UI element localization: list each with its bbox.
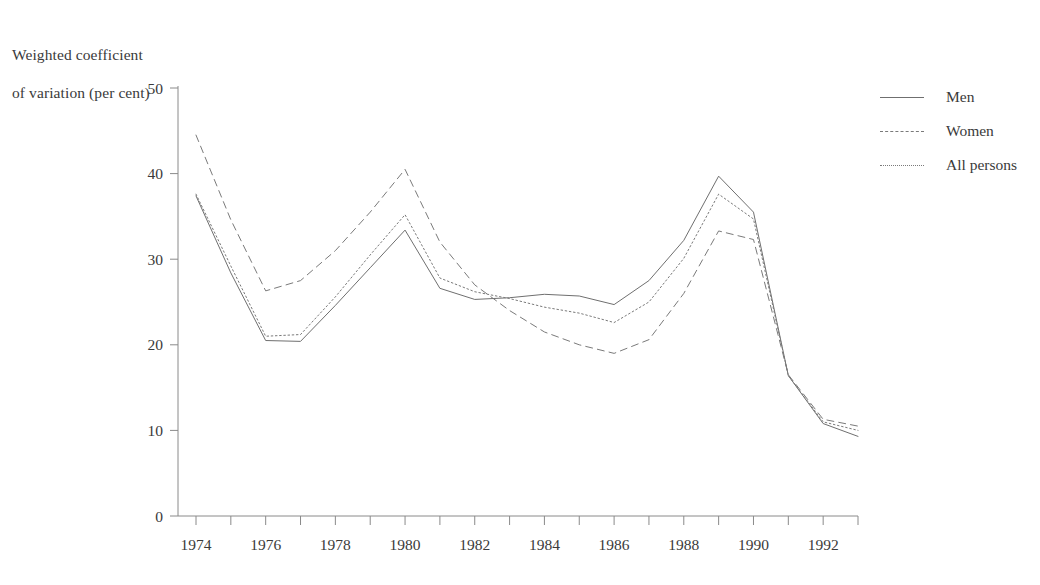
y-axis-tick-label: 0 bbox=[155, 508, 163, 525]
legend-label: All persons bbox=[946, 156, 1017, 174]
legend-item-women[interactable]: Women bbox=[880, 122, 1040, 146]
series-line-women bbox=[196, 135, 858, 426]
legend-label: Women bbox=[946, 122, 994, 140]
x-axis-tick-label: 1986 bbox=[599, 536, 630, 553]
x-axis-tick-label: 1974 bbox=[181, 536, 212, 553]
chart-container: Weighted coefficient of variation (per c… bbox=[0, 0, 1040, 585]
x-axis-tick-label: 1980 bbox=[390, 536, 421, 553]
x-axis-tick-label: 1982 bbox=[459, 536, 490, 553]
series-line-all-persons bbox=[196, 194, 858, 430]
x-axis-tick-label: 1976 bbox=[250, 536, 281, 553]
legend-swatch-dashed bbox=[880, 131, 924, 132]
y-axis-tick-label: 20 bbox=[148, 336, 164, 353]
y-axis-tick-label: 10 bbox=[148, 422, 164, 439]
y-axis-tick-label: 40 bbox=[148, 165, 164, 182]
x-axis-tick-label: 1988 bbox=[668, 536, 699, 553]
legend-swatch-dotted bbox=[880, 165, 924, 166]
series-line-men bbox=[196, 176, 858, 436]
legend-item-men[interactable]: Men bbox=[880, 88, 1040, 112]
x-axis-tick-label: 1978 bbox=[320, 536, 351, 553]
y-axis-tick-label: 30 bbox=[148, 251, 164, 268]
x-axis-tick-label: 1992 bbox=[808, 536, 839, 553]
x-axis-tick-label: 1984 bbox=[529, 536, 560, 553]
x-axis-tick-label: 1990 bbox=[738, 536, 769, 553]
legend-swatch-solid bbox=[880, 97, 924, 98]
y-axis-tick-label: 50 bbox=[148, 80, 164, 97]
legend-item-all-persons[interactable]: All persons bbox=[880, 156, 1040, 180]
legend-label: Men bbox=[946, 88, 974, 106]
